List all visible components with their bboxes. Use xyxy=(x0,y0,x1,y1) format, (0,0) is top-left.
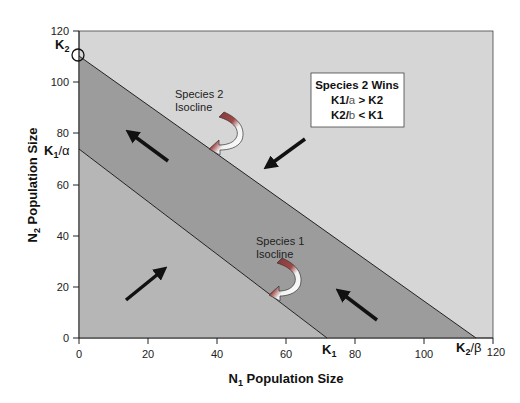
outcome-box: Species 2 Wins K1/a > K2 K2/b < K1 xyxy=(311,73,404,127)
species2-isocline-label: Isocline xyxy=(175,101,212,113)
outcome-title: Species 2 Wins xyxy=(315,79,399,91)
x-tick-label: 0 xyxy=(76,348,82,360)
y-tick-label: 120 xyxy=(51,25,69,37)
outcome-condition-2: K2/b < K1 xyxy=(331,109,384,121)
y-axis-title: N2 Population Size xyxy=(25,128,42,243)
k1-intercept-label: K1 xyxy=(322,342,336,359)
x-ticks xyxy=(79,338,493,344)
x-axis-title: N1 Population Size xyxy=(229,371,344,388)
y-ticks xyxy=(73,31,79,338)
species1-isocline-label: Isocline xyxy=(256,248,293,260)
y-tick-label: 20 xyxy=(57,281,69,293)
x-tick-label: 100 xyxy=(415,348,433,360)
x-tick-label: 60 xyxy=(280,348,292,360)
k2-beta-intercept-label: K2/β xyxy=(456,340,482,357)
x-tick-label: 20 xyxy=(142,348,154,360)
y-tick-label: 40 xyxy=(57,230,69,242)
outcome-condition-1: K1/a > K2 xyxy=(331,94,383,106)
k1-alpha-intercept-label: K1/α xyxy=(44,143,70,160)
y-tick-label: 80 xyxy=(57,127,69,139)
species1-isocline-label: Species 1 xyxy=(256,235,304,247)
x-tick-label: 80 xyxy=(349,348,361,360)
x-tick-label: 120 xyxy=(487,346,505,358)
y-tick-label: 60 xyxy=(57,179,69,191)
isocline-chart: 0 20 40 60 80 100 120 0 20 40 60 80 100 … xyxy=(0,0,520,403)
species2-isocline-label: Species 2 xyxy=(175,88,223,100)
y-tick-label: 100 xyxy=(51,76,69,88)
y-tick-label: 0 xyxy=(63,332,69,344)
x-tick-label: 40 xyxy=(211,348,223,360)
k2-intercept-label: K2 xyxy=(55,37,69,54)
